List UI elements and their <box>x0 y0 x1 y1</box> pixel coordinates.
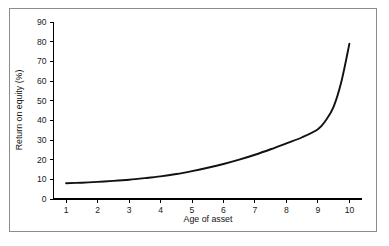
figure-container: 0102030405060708090 12345678910 Age of a… <box>0 0 389 246</box>
y-axis-title: Return on equity (%) <box>14 70 24 151</box>
y-tick-label: 30 <box>37 135 47 145</box>
chart-canvas: 0102030405060708090 12345678910 Age of a… <box>10 9 376 231</box>
x-tick-label: 7 <box>253 205 258 215</box>
y-tick-label: 10 <box>37 174 47 184</box>
y-tick-label: 60 <box>37 76 47 86</box>
x-tick-label: 3 <box>127 205 132 215</box>
figure-frame: 0102030405060708090 12345678910 Age of a… <box>9 8 377 232</box>
x-tick-label: 9 <box>316 205 321 215</box>
x-tick-label: 1 <box>64 205 69 215</box>
x-tick-label: 10 <box>345 205 355 215</box>
y-tick-label: 40 <box>37 115 47 125</box>
y-tick-label: 70 <box>37 56 47 66</box>
x-tick-label: 4 <box>158 205 163 215</box>
x-tick-label: 8 <box>284 205 289 215</box>
y-tick-label: 90 <box>37 17 47 27</box>
y-tick-label: 0 <box>42 194 47 204</box>
y-tick-label: 50 <box>37 96 47 106</box>
return-on-equity-curve <box>66 44 349 184</box>
x-axis-ticks: 12345678910 <box>64 199 355 215</box>
x-tick-label: 2 <box>95 205 100 215</box>
y-tick-label: 20 <box>37 155 47 165</box>
x-axis-title: Age of asset <box>184 214 233 224</box>
y-tick-label: 80 <box>37 37 47 47</box>
y-axis-ticks: 0102030405060708090 <box>37 17 54 204</box>
